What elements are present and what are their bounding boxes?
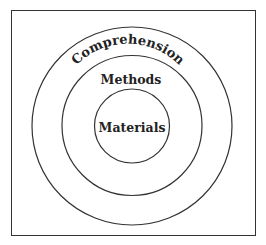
concentric-circles-diagram: Comprehension Methods Materials (0, 0, 266, 245)
middle-label: Methods (101, 72, 162, 87)
inner-label: Materials (99, 120, 166, 135)
outer-label: Comprehension (68, 32, 188, 68)
